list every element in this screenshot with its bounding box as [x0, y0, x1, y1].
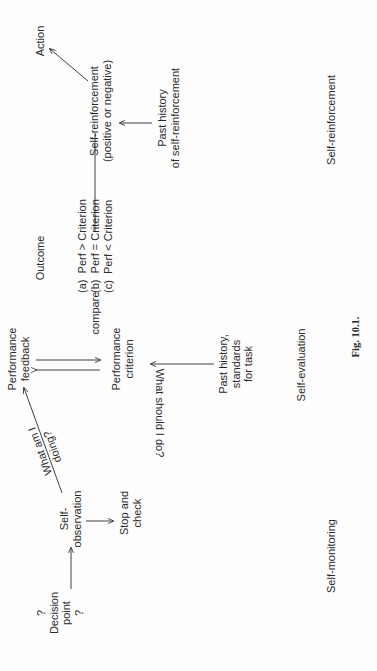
decision-point-node: ? Decision point ?	[35, 592, 85, 634]
stage-self-monitoring: Self-monitoring	[325, 519, 338, 593]
outcome-a: (a) Perf > Criterion	[76, 199, 89, 293]
performance-feedback-node: Performance feedback	[6, 328, 31, 391]
outcome-title: Outcome	[34, 236, 47, 281]
outcome-c: (c) Perf < Criterion	[102, 200, 115, 293]
self-reinforcement-node: Self-reinforcement (positive or negative…	[88, 60, 113, 162]
action-node: Action	[34, 26, 47, 57]
past-history-self-reinforcement-node: Past history of self-reinforcement	[156, 68, 181, 168]
outcome-b: (b) Perf = Criterion	[89, 199, 102, 293]
arrow-reinforcement-to-action	[50, 49, 88, 81]
stage-self-reinforcement: Self-reinforcement	[325, 75, 338, 165]
performance-criterion-node: Performance criterion	[110, 328, 135, 391]
self-observation-node: Self- observation	[58, 491, 83, 548]
connector-arrows	[0, 0, 377, 671]
figure-caption: Fig. 10.1.	[350, 317, 363, 358]
past-history-standards-node: Past history, standards for task	[217, 334, 255, 394]
stop-and-check-node: Stop and check	[118, 491, 143, 535]
compare-label: compare	[89, 292, 102, 335]
figure-10-1: ? Decision point ? Self- observation Sto…	[0, 0, 377, 671]
what-should-i-do-label: What should I do?	[154, 369, 167, 458]
stage-self-evaluation: Self-evaluation	[295, 329, 308, 402]
